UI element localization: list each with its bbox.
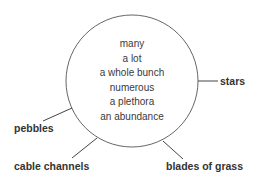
label-cable-channels: cable channels [14, 160, 89, 172]
center-word-list: many a lot a whole bunch numerous a plet… [82, 37, 182, 125]
label-blades-of-grass: blades of grass [166, 160, 243, 172]
center-word: many [82, 37, 182, 52]
center-word: an abundance [82, 110, 182, 125]
label-pebbles: pebbles [14, 122, 54, 134]
connector-pebbles [43, 108, 72, 121]
label-stars: stars [220, 75, 245, 87]
center-word: a whole bunch [82, 66, 182, 81]
connector-cable-channels [72, 138, 97, 158]
center-word: a plethora [82, 95, 182, 110]
center-word: a lot [82, 52, 182, 67]
center-word: numerous [82, 81, 182, 96]
connector-blades-of-grass [163, 141, 183, 159]
